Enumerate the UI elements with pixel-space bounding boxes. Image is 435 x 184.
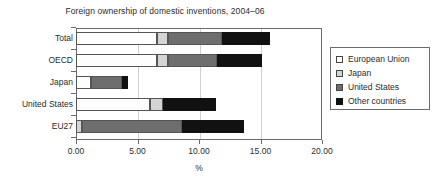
bar-segment[interactable] (157, 54, 168, 67)
chart-legend: European UnionJapanUnited StatesOther co… (330, 47, 430, 110)
y-axis-tick-label: Japan (1, 77, 73, 87)
legend-item[interactable]: United States (336, 80, 429, 94)
chart-title: Foreign ownership of domestic inventions… (0, 6, 330, 16)
bar-segment[interactable] (168, 54, 217, 67)
bar-segment[interactable] (222, 32, 270, 45)
x-axis-tick-labels: 0.005.0010.0015.0020.00 (0, 146, 435, 158)
legend-swatch-icon (336, 56, 343, 63)
bar-row[interactable] (76, 120, 245, 133)
legend-label: United States (348, 82, 399, 92)
y-axis-tick-label: Total (1, 33, 73, 43)
bar-segment[interactable] (76, 98, 150, 111)
x-axis-tick-label: 10.00 (177, 146, 221, 156)
bar-segment[interactable] (82, 120, 182, 133)
x-axis-ticks (76, 140, 323, 145)
y-axis-tick (71, 93, 76, 94)
bar-segment[interactable] (163, 98, 216, 111)
bar-segment[interactable] (217, 54, 261, 67)
legend-item[interactable]: European Union (336, 52, 429, 66)
legend-swatch-icon (336, 98, 343, 105)
legend-item[interactable]: Other countries (336, 94, 429, 108)
y-axis-tick-label: EU27 (1, 121, 73, 131)
x-axis-tick-label: 0.00 (54, 146, 98, 156)
x-axis-tick (76, 140, 77, 144)
bars-layer (76, 28, 322, 140)
x-axis-title: % (76, 163, 322, 173)
y-axis-tick (71, 27, 76, 28)
legend-swatch-icon (336, 70, 343, 77)
bar-row[interactable] (76, 32, 270, 45)
x-axis-tick (261, 140, 262, 144)
y-axis-labels: TotalOECDJapanUnited StatesEU27 (0, 28, 73, 140)
legend-label: European Union (348, 54, 409, 64)
bar-segment[interactable] (168, 32, 222, 45)
bar-segment[interactable] (91, 76, 122, 89)
x-axis-tick (138, 140, 139, 144)
y-axis-tick-label: United States (1, 99, 73, 109)
bar-segment[interactable] (76, 76, 91, 89)
bar-segment[interactable] (76, 32, 157, 45)
y-axis-tick (71, 49, 76, 50)
x-axis-tick (322, 140, 323, 144)
legend-item[interactable]: Japan (336, 66, 429, 80)
x-axis-tick (199, 140, 200, 144)
x-axis-tick-label: 20.00 (300, 146, 344, 156)
x-axis-tick-label: 5.00 (116, 146, 160, 156)
bar-row[interactable] (76, 98, 216, 111)
bar-row[interactable] (76, 54, 262, 67)
y-axis-tick-label: OECD (1, 55, 73, 65)
bar-segment[interactable] (150, 98, 164, 111)
y-axis-ticks (71, 28, 77, 140)
legend-swatch-icon (336, 84, 343, 91)
y-axis-tick (71, 137, 76, 138)
bar-segment[interactable] (157, 32, 168, 45)
y-axis-tick (71, 71, 76, 72)
x-axis-tick-label: 15.00 (239, 146, 283, 156)
legend-label: Japan (348, 68, 371, 78)
legend-label: Other countries (348, 96, 406, 106)
bar-segment[interactable] (122, 76, 128, 89)
bar-segment[interactable] (76, 54, 157, 67)
bar-row[interactable] (76, 76, 128, 89)
y-axis-tick (71, 115, 76, 116)
bar-segment[interactable] (182, 120, 245, 133)
